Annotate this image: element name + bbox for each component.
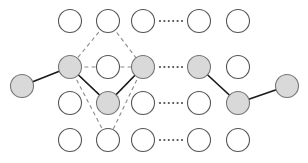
ellipsis-dot: [168, 20, 170, 22]
lattice-node-open[interactable]: [132, 92, 155, 115]
ellipsis-dots: [159, 139, 183, 141]
ellipsis-dot: [159, 102, 161, 104]
lattice-node-shaded[interactable]: [11, 75, 34, 98]
ellipsis-dot: [181, 66, 183, 68]
lattice-node-open[interactable]: [227, 129, 250, 152]
ellipsis-dots: [159, 20, 183, 22]
ellipsis-dot: [181, 102, 183, 104]
lattice-node-shaded[interactable]: [97, 92, 120, 115]
ellipsis-dot: [172, 102, 174, 104]
lattice-node-open[interactable]: [59, 129, 82, 152]
ellipsis-dot: [172, 20, 174, 22]
ellipsis-dot: [172, 66, 174, 68]
ellipsis-dots: [159, 66, 183, 68]
ellipsis-dot: [177, 66, 179, 68]
lattice-node-open[interactable]: [97, 56, 120, 79]
lattice-node-open[interactable]: [188, 92, 211, 115]
lattice-node-open[interactable]: [59, 92, 82, 115]
ellipsis-dot: [172, 139, 174, 141]
lattice-node-open[interactable]: [188, 10, 211, 33]
lattice-node-shaded[interactable]: [188, 56, 211, 79]
lattice-node-open[interactable]: [227, 56, 250, 79]
lattice-node-open[interactable]: [59, 10, 82, 33]
ellipsis-dot: [163, 139, 165, 141]
node-layer: [11, 10, 299, 152]
lattice-node-shaded[interactable]: [227, 92, 250, 115]
ellipsis-dot: [177, 139, 179, 141]
ellipsis-dot: [163, 66, 165, 68]
ellipsis-dot: [177, 20, 179, 22]
ellipsis-dot: [168, 66, 170, 68]
lattice-node-shaded[interactable]: [132, 56, 155, 79]
ellipsis-dot: [163, 102, 165, 104]
dashed-edge-layer: [70, 21, 143, 140]
ellipsis-dot: [159, 66, 161, 68]
ellipsis-dot: [168, 139, 170, 141]
ellipsis-dot: [177, 102, 179, 104]
ellipsis-layer: [159, 20, 183, 141]
lattice-node-open[interactable]: [97, 129, 120, 152]
lattice-node-open[interactable]: [188, 129, 211, 152]
ellipsis-dot: [159, 20, 161, 22]
ellipsis-dot: [159, 139, 161, 141]
ellipsis-dot: [181, 20, 183, 22]
lattice-node-open[interactable]: [97, 10, 120, 33]
ellipsis-dot: [168, 102, 170, 104]
lattice-node-open[interactable]: [132, 129, 155, 152]
lattice-node-shaded[interactable]: [276, 75, 299, 98]
ellipsis-dots: [159, 102, 183, 104]
ellipsis-dot: [163, 20, 165, 22]
lattice-node-shaded[interactable]: [59, 56, 82, 79]
lattice-node-open[interactable]: [227, 10, 250, 33]
lattice-node-open[interactable]: [132, 10, 155, 33]
lattice-diagram-svg: [0, 0, 308, 163]
lattice-figure: [0, 0, 308, 163]
ellipsis-dot: [181, 139, 183, 141]
